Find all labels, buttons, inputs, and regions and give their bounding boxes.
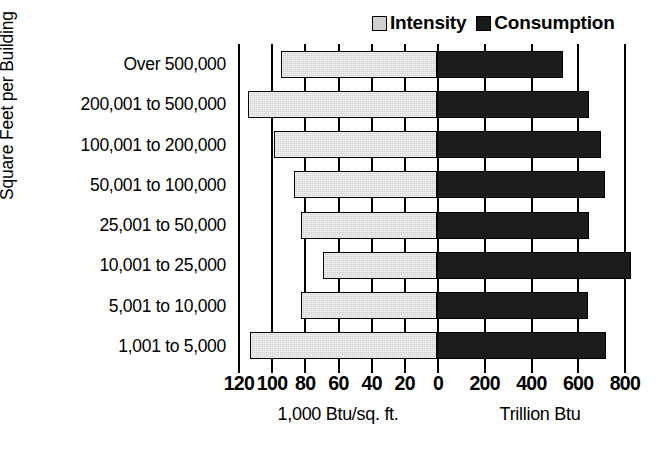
xtick-left-0-label: 0 xyxy=(433,372,443,395)
legend-label-consumption: Consumption xyxy=(494,12,614,34)
bar-consumption xyxy=(437,91,589,118)
bar-consumption xyxy=(437,51,563,78)
legend-entry-consumption: Consumption xyxy=(476,12,614,34)
bar-intensity xyxy=(301,212,437,239)
xtick-left-40-label: 40 xyxy=(361,372,382,395)
y-axis-label: Over 500,000 xyxy=(124,54,226,75)
x-axis-caption-right: Trillion Btu xyxy=(500,404,581,425)
y-axis-label: 50,001 to 100,000 xyxy=(90,174,226,195)
xtick-left-100-label: 100 xyxy=(257,372,288,395)
legend-swatch-consumption xyxy=(476,16,491,31)
chart-container: Intensity Consumption Square Feet per Bu… xyxy=(0,0,670,459)
xtick-right-800-label: 800 xyxy=(610,372,641,395)
y-axis-label: 100,001 to 200,000 xyxy=(81,134,226,155)
bar-consumption xyxy=(437,131,601,158)
bar-consumption xyxy=(437,292,588,319)
xtick-right-200-label: 200 xyxy=(469,372,500,395)
bar-intensity xyxy=(323,252,437,279)
y-axis-category-labels: Over 500,000200,001 to 500,000100,001 to… xyxy=(0,44,233,366)
xtick-right-600-label: 600 xyxy=(563,372,594,395)
legend-label-intensity: Intensity xyxy=(390,12,466,34)
y-axis-label: 1,001 to 5,000 xyxy=(118,335,226,356)
gridline-right-800 xyxy=(624,44,626,366)
bar-intensity xyxy=(281,51,437,78)
bar-intensity xyxy=(248,91,437,118)
bar-consumption xyxy=(437,171,605,198)
xtick-left-120-label: 120 xyxy=(224,372,255,395)
y-axis-label: 25,001 to 50,000 xyxy=(99,215,226,236)
y-axis-label: 10,001 to 25,000 xyxy=(99,255,226,276)
y-axis-label: 5,001 to 10,000 xyxy=(109,295,226,316)
bar-intensity xyxy=(294,171,437,198)
bar-consumption xyxy=(437,252,631,279)
legend-swatch-intensity xyxy=(372,16,387,31)
bar-intensity xyxy=(301,292,437,319)
bar-consumption xyxy=(437,212,589,239)
xtick-left-20-label: 20 xyxy=(395,372,416,395)
chart-legend: Intensity Consumption xyxy=(372,12,615,34)
bar-consumption xyxy=(437,332,606,359)
y-axis-line xyxy=(238,44,240,366)
xtick-left-60-label: 60 xyxy=(328,372,349,395)
plot-area xyxy=(238,44,624,366)
legend-entry-intensity: Intensity xyxy=(372,12,466,34)
xtick-right-400-label: 400 xyxy=(516,372,547,395)
bar-intensity xyxy=(274,131,437,158)
xtick-left-80-label: 80 xyxy=(295,372,316,395)
y-axis-label: 200,001 to 500,000 xyxy=(81,94,226,115)
bar-intensity xyxy=(250,332,437,359)
x-axis-caption-left: 1,000 Btu/sq. ft. xyxy=(278,404,399,425)
x-axis-tick-labels: 120100806040200200400600800 xyxy=(0,372,670,398)
